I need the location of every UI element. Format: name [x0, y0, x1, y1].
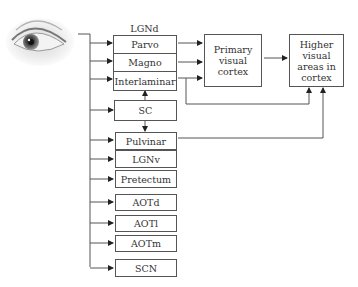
scn-box: SCN	[115, 259, 177, 277]
lgnd-box: Parvo Magno Interlaminar	[113, 35, 177, 91]
sc-box: SC	[114, 100, 177, 121]
lgnd-interlaminar: Interlaminar	[114, 71, 176, 91]
aotm-box: AOTm	[115, 235, 177, 252]
lgnv-box: LGNv	[115, 150, 177, 168]
aotd-box: AOTd	[115, 194, 177, 211]
primary-visual-cortex-box: Primary visual cortex	[204, 34, 262, 87]
lgnd-parvo: Parvo	[114, 36, 176, 53]
lgnd-magno: Magno	[114, 53, 176, 71]
aotl-box: AOTl	[115, 215, 177, 232]
visual-pathway-diagram: LGNd Parvo Magno Interlaminar Primary vi…	[0, 0, 358, 287]
pretectum-box: Pretectum	[115, 170, 177, 188]
higher-visual-areas-box: Higher visual areas in cortex	[289, 34, 344, 87]
lgnd-title: LGNd	[113, 23, 176, 34]
eye-icon	[6, 18, 74, 66]
pulvinar-box: Pulvinar	[115, 132, 177, 150]
